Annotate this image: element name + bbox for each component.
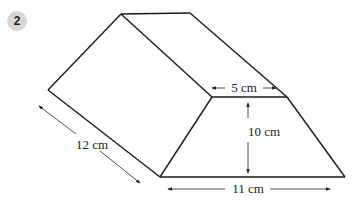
height-label: 10 cm <box>248 124 280 139</box>
bottom-width-label: 11 cm <box>232 181 264 196</box>
length-label: 12 cm <box>76 137 108 152</box>
prism-edges <box>48 13 345 177</box>
prism-diagram: 5 cm 10 cm 11 cm 12 cm <box>0 0 362 207</box>
top-width-label: 5 cm <box>231 80 257 95</box>
